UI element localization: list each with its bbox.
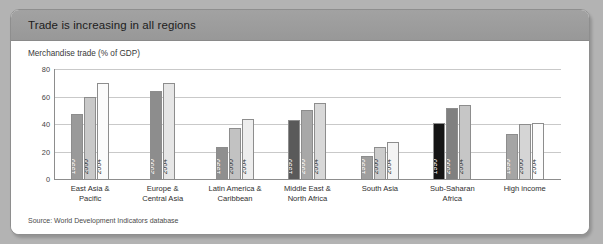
bar-group: 199020002004 — [54, 69, 126, 179]
card-header: Trade is increasing in all regions — [11, 10, 589, 41]
x-axis-category-label: Europe &Central Asia — [126, 184, 198, 204]
bar: 2000 — [519, 124, 531, 179]
bar: 2000 — [301, 110, 313, 179]
x-axis-category-label: Middle East &North Africa — [271, 184, 343, 204]
chart-subtitle: Merchandise trade (% of GDP) — [28, 49, 140, 58]
bar-group: 199020002004 — [271, 69, 343, 179]
bar-year-label: 1990 — [361, 159, 367, 174]
bar: 2000 — [374, 147, 386, 179]
bar-year-label: 2000 — [374, 159, 380, 174]
card-body: Merchandise trade (% of GDP) 020406080 1… — [11, 41, 589, 234]
bar-year-label: 2000 — [301, 159, 307, 174]
y-axis-tick-label: 0 — [46, 175, 50, 184]
x-axis-category-label: Latin America &Caribbean — [199, 184, 271, 204]
bar-year-label: 1990 — [506, 159, 512, 174]
bar-year-label: 2000 — [150, 159, 156, 174]
y-axis-tick-label: 40 — [42, 120, 50, 129]
x-axis-category-label: Sub-SaharanAfrica — [416, 184, 488, 204]
bar: 2004 — [314, 103, 326, 179]
bar-group: 20002004 — [126, 69, 198, 179]
x-axis-category-label: South Asia — [344, 184, 416, 204]
source-note: Source: World Development Indicators dat… — [28, 217, 178, 224]
bar: 2004 — [97, 83, 109, 179]
bar-year-label: 1990 — [433, 159, 439, 174]
bar: 2004 — [532, 123, 544, 179]
bar-year-label: 1990 — [288, 159, 294, 174]
bar: 2004 — [163, 83, 175, 179]
y-axis-tick-label: 60 — [42, 92, 50, 101]
bar: 1990 — [71, 114, 83, 179]
bar-year-label: 2000 — [519, 159, 525, 174]
bar-year-label: 2004 — [532, 159, 538, 174]
bar-year-label: 2004 — [242, 159, 248, 174]
y-axis-tick-label: 20 — [42, 147, 50, 156]
x-axis-category-label: East Asia &Pacific — [54, 184, 126, 204]
bar-year-label: 2000 — [446, 159, 452, 174]
bar: 2000 — [150, 91, 162, 179]
bar: 1990 — [433, 123, 445, 179]
page-title: Trade is increasing in all regions — [11, 19, 196, 31]
bar: 1990 — [361, 156, 373, 179]
bar-group: 199020002004 — [489, 69, 561, 179]
bar-year-label: 2004 — [459, 159, 465, 174]
bar-group: 199020002004 — [199, 69, 271, 179]
bar-year-label: 2000 — [84, 159, 90, 174]
bar-group: 199020002004 — [344, 69, 416, 179]
bar-year-label: 2000 — [229, 159, 235, 174]
bar: 2004 — [459, 105, 471, 179]
bar-year-label: 1990 — [71, 159, 77, 174]
bar-year-label: 2004 — [387, 159, 393, 174]
bar: 2000 — [446, 108, 458, 180]
bar: 1990 — [506, 134, 518, 179]
bar-year-label: 2004 — [314, 159, 320, 174]
bar: 1990 — [216, 147, 228, 179]
x-axis-labels: East Asia &PacificEurope &Central AsiaLa… — [54, 184, 561, 204]
bar: 2000 — [229, 128, 241, 179]
x-axis-line — [54, 179, 561, 180]
x-axis-category-label: High income — [489, 184, 561, 204]
bar: 2004 — [242, 119, 254, 180]
bar-year-label: 2004 — [97, 159, 103, 174]
bar: 2000 — [84, 97, 96, 180]
plot-area: 020406080 199020002004200020041990200020… — [54, 69, 561, 179]
y-axis-tick-label: 80 — [42, 65, 50, 74]
bar: 1990 — [288, 120, 300, 179]
bar-year-label: 1990 — [216, 159, 222, 174]
chart-card: Trade is increasing in all regions Merch… — [10, 9, 590, 235]
bar-year-label: 2004 — [163, 159, 169, 174]
screenshot-root: Trade is increasing in all regions Merch… — [0, 0, 603, 244]
bar: 2004 — [387, 142, 399, 179]
bar-groups: 1990200020042000200419902000200419902000… — [54, 69, 561, 179]
bar-group: 199020002004 — [416, 69, 488, 179]
